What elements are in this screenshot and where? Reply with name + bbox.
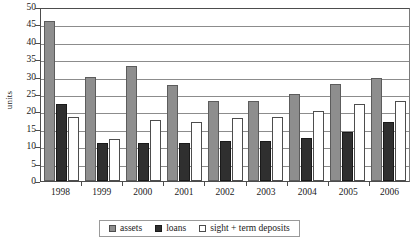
- bar-assets-2000: [126, 66, 137, 181]
- bar-assets-1999: [85, 77, 96, 181]
- bar-group-2002: [205, 9, 246, 181]
- bar-group-1999: [82, 9, 123, 181]
- x-axis-tick-label: 2005: [328, 183, 369, 201]
- bar-assets-1998: [44, 21, 55, 181]
- plot-area: [40, 8, 410, 182]
- legend-item-assets[interactable]: assets: [109, 224, 142, 234]
- bar-loans-1998: [56, 104, 67, 181]
- bar-group-2004: [286, 9, 327, 181]
- y-axis-ticks: [33, 8, 40, 182]
- x-axis-tick-label: 2000: [122, 183, 163, 201]
- bar-loans-1999: [97, 143, 108, 181]
- legend-swatch-assets-icon: [109, 225, 116, 232]
- bar-loans-2001: [179, 143, 190, 181]
- bar-deposits-2000: [150, 120, 161, 181]
- x-axis-tick-label: 2003: [246, 183, 287, 201]
- bar-deposits-1998: [68, 117, 79, 181]
- x-axis-tick-labels: 199819992000200120022003200420052006: [40, 183, 410, 201]
- bar-deposits-1999: [109, 139, 120, 181]
- legend-swatch-loans-icon: [155, 225, 162, 232]
- bar-deposits-2006: [395, 101, 406, 181]
- bar-deposits-2005: [354, 104, 365, 181]
- legend-swatch-deposits-icon: [199, 225, 206, 232]
- bar-loans-2002: [220, 141, 231, 181]
- bar-loans-2004: [301, 138, 312, 182]
- legend-label: assets: [120, 224, 142, 234]
- bar-deposits-2002: [232, 118, 243, 181]
- chart-legend: assetsloanssight + term deposits: [99, 220, 300, 237]
- bar-group-2005: [327, 9, 368, 181]
- x-axis-tick-label: 1998: [40, 183, 81, 201]
- bar-assets-2001: [167, 85, 178, 181]
- x-axis-tick-label: 1999: [81, 183, 122, 201]
- bar-loans-2005: [342, 132, 353, 181]
- bar-group-1998: [41, 9, 82, 181]
- bar-group-2006: [368, 9, 409, 181]
- bar-group-2001: [164, 9, 205, 181]
- bar-assets-2003: [248, 101, 259, 181]
- bar-assets-2004: [289, 94, 300, 181]
- legend-item-loans[interactable]: loans: [155, 224, 186, 234]
- bar-groups: [41, 9, 409, 181]
- bar-chart: units 50454035302520151050 1998199920002…: [0, 0, 417, 243]
- bar-loans-2000: [138, 143, 149, 181]
- bar-loans-2003: [260, 141, 271, 181]
- legend-label: sight + term deposits: [210, 224, 290, 234]
- bar-assets-2006: [371, 78, 382, 181]
- bar-assets-2002: [208, 101, 219, 181]
- x-axis-tick-label: 2002: [204, 183, 245, 201]
- bar-deposits-2003: [272, 117, 283, 181]
- bar-deposits-2001: [191, 122, 202, 181]
- bar-deposits-2004: [313, 111, 324, 181]
- bar-assets-2005: [330, 84, 341, 181]
- x-axis-tick-label: 2004: [287, 183, 328, 201]
- x-axis-tick-label: 2001: [163, 183, 204, 201]
- legend-item-deposits[interactable]: sight + term deposits: [199, 224, 290, 234]
- bar-loans-2006: [383, 122, 394, 181]
- legend-label: loans: [166, 224, 186, 234]
- y-axis-title-label: units: [4, 91, 14, 110]
- bar-group-2003: [245, 9, 286, 181]
- x-axis-tick-label: 2006: [369, 183, 410, 201]
- bar-group-2000: [123, 9, 164, 181]
